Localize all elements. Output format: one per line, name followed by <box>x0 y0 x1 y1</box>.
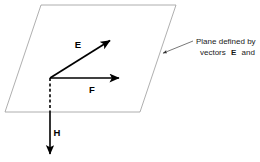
annotation-conjunction: and <box>242 48 255 57</box>
annotation-line-2-prefix: vectors <box>200 48 226 57</box>
diagram-canvas: E F H Plane defined by vectors E and F <box>0 0 260 162</box>
vector-e-label: E <box>75 39 81 50</box>
annotation-line-1: Plane defined by <box>196 37 256 46</box>
annotation-line-2: vectors E and F <box>200 48 260 57</box>
vector-f-label: F <box>89 84 95 95</box>
vector-plane-diagram: E F H Plane defined by vectors E and F <box>0 0 260 162</box>
plane-parallelogram <box>5 5 176 112</box>
annotation-vector-e-ref: E <box>231 48 237 57</box>
vector-h-label: H <box>54 127 61 138</box>
annotation-leader-line <box>163 41 193 53</box>
